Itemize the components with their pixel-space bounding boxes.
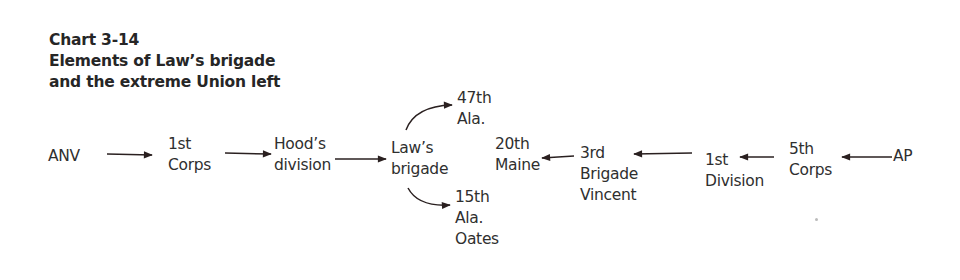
node-20th-maine: 20th Maine — [495, 134, 540, 176]
node-anv: ANV — [48, 146, 80, 167]
arrow-laws-brigade-to-15th-ala — [408, 188, 450, 205]
node-47th-ala: 47th Ala. — [457, 88, 491, 130]
arrow-laws-brigade-to-47th-ala — [406, 105, 452, 130]
node-15th-ala-oates: 15th Ala. Oates — [455, 187, 499, 250]
arrow-1st-corps-to-hoods-division — [225, 153, 271, 154]
node-5th-corps: 5th Corps — [789, 139, 832, 181]
arrow-anv-to-1st-corps — [107, 154, 152, 155]
speck — [815, 218, 818, 221]
node-3rd-brigade-vincent: 3rd Brigade Vincent — [580, 143, 638, 206]
arrow-3rd-brigade-to-20th-maine — [542, 156, 574, 158]
node-hoods-division: Hood’s division — [274, 134, 331, 176]
node-1st-division: 1st Division — [705, 150, 764, 192]
node-ap: AP — [893, 146, 912, 167]
arrow-1st-division-to-3rd-brigade — [634, 153, 692, 154]
node-1st-corps: 1st Corps — [168, 134, 211, 176]
node-laws-brigade: Law’s brigade — [391, 138, 448, 180]
